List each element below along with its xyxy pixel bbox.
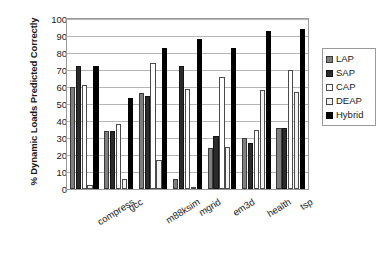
bar-group bbox=[67, 19, 101, 189]
bar-hybrid-tsp bbox=[300, 29, 305, 189]
bar-lap-tsp bbox=[276, 128, 281, 189]
bar-sap-health bbox=[248, 143, 253, 189]
y-axis-title: % Dynamic Loads Predicted Correctly bbox=[28, 7, 39, 197]
bar-chart: % Dynamic Loads Predicted Correctly 0102… bbox=[0, 0, 383, 269]
bar-deap-m88ksim bbox=[156, 160, 161, 189]
y-tick-label: 80 bbox=[41, 48, 67, 59]
y-tick-label: 10 bbox=[41, 167, 67, 178]
legend-label: Hybrid bbox=[336, 110, 363, 120]
legend-swatch-icon bbox=[326, 112, 333, 119]
legend-item-sap[interactable]: SAP bbox=[326, 66, 373, 80]
legend-swatch-icon bbox=[326, 70, 333, 77]
bar-hybrid-gcc bbox=[128, 98, 133, 189]
bar-lap-compress bbox=[70, 87, 75, 189]
legend-item-deap[interactable]: DEAP bbox=[326, 94, 373, 108]
bar-deap-health bbox=[260, 90, 265, 189]
bar-lap-gcc bbox=[104, 131, 109, 189]
bar-cap-em3d bbox=[219, 77, 224, 189]
legend-label: SAP bbox=[336, 68, 355, 78]
bar-hybrid-m88ksim bbox=[162, 48, 167, 189]
y-tick-label: 30 bbox=[41, 133, 67, 144]
y-tick-label: 20 bbox=[41, 150, 67, 161]
bar-hybrid-mgrid bbox=[197, 39, 202, 189]
bar-sap-compress bbox=[76, 66, 81, 189]
bar-cap-compress bbox=[82, 85, 87, 189]
bar-lap-m88ksim bbox=[139, 93, 144, 189]
bar-group bbox=[101, 19, 135, 189]
x-tick-label-em3d: em3d bbox=[231, 196, 257, 218]
bar-group bbox=[170, 19, 204, 189]
bar-hybrid-compress bbox=[93, 66, 98, 189]
x-tick-label-mgrid: mgrid bbox=[196, 196, 222, 218]
legend-label: LAP bbox=[336, 54, 354, 64]
x-tick-label-health: health bbox=[265, 196, 293, 219]
x-tick-label-m88ksim: m88ksim bbox=[164, 196, 202, 225]
y-tick-label: 60 bbox=[41, 82, 67, 93]
bar-sap-gcc bbox=[110, 131, 115, 189]
bar-deap-em3d bbox=[225, 147, 230, 190]
bar-cap-m88ksim bbox=[150, 63, 155, 189]
legend-item-hybrid[interactable]: Hybrid bbox=[326, 108, 373, 122]
bar-group bbox=[274, 19, 308, 189]
legend-item-cap[interactable]: CAP bbox=[326, 80, 373, 94]
bar-hybrid-health bbox=[266, 31, 271, 189]
bar-group bbox=[239, 19, 273, 189]
bar-deap-mgrid bbox=[191, 187, 196, 189]
bar-group bbox=[205, 19, 239, 189]
legend-item-lap[interactable]: LAP bbox=[326, 52, 373, 66]
legend-swatch-icon bbox=[326, 56, 333, 63]
bar-lap-mgrid bbox=[173, 179, 178, 189]
y-tick-label: 70 bbox=[41, 65, 67, 76]
x-tick-label-tsp: tsp bbox=[298, 196, 315, 212]
bar-sap-em3d bbox=[213, 136, 218, 189]
bar-deap-compress bbox=[87, 185, 92, 189]
y-tick-label: 50 bbox=[41, 99, 67, 110]
y-tick-label: 40 bbox=[41, 116, 67, 127]
bar-cap-health bbox=[254, 130, 259, 190]
y-tick-label: 0 bbox=[41, 184, 67, 195]
legend-swatch-icon bbox=[326, 84, 333, 91]
bar-lap-em3d bbox=[208, 148, 213, 189]
bar-sap-m88ksim bbox=[145, 96, 150, 190]
bar-cap-mgrid bbox=[185, 89, 190, 189]
legend-label: DEAP bbox=[336, 96, 362, 106]
bar-sap-tsp bbox=[282, 128, 287, 189]
bar-group bbox=[136, 19, 170, 189]
bar-deap-gcc bbox=[122, 179, 127, 189]
legend-swatch-icon bbox=[326, 98, 333, 105]
y-tick-label: 90 bbox=[41, 31, 67, 42]
legend: LAPSAPCAPDEAPHybrid bbox=[322, 48, 376, 126]
bar-lap-health bbox=[242, 138, 247, 189]
y-tick-label: 100 bbox=[41, 14, 67, 25]
bar-deap-tsp bbox=[294, 92, 299, 189]
bar-cap-tsp bbox=[288, 70, 293, 189]
bar-sap-mgrid bbox=[179, 66, 184, 189]
bar-hybrid-em3d bbox=[231, 48, 236, 189]
bars-layer bbox=[67, 19, 308, 189]
legend-label: CAP bbox=[336, 82, 356, 92]
bar-cap-gcc bbox=[116, 124, 121, 189]
